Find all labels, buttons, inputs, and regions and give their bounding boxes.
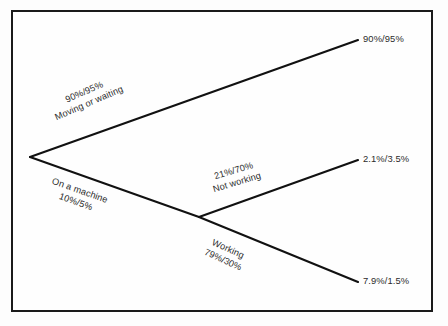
diagram-canvas: 90%/95% Moving or waiting On a machine 1…: [0, 0, 448, 326]
endpoint-label-working: 7.9%/1.5%: [363, 275, 409, 286]
endpoint-label-moving-or-waiting: 90%/95%: [363, 33, 404, 44]
endpoint-label-not-working: 2.1%/3.5%: [363, 153, 409, 164]
